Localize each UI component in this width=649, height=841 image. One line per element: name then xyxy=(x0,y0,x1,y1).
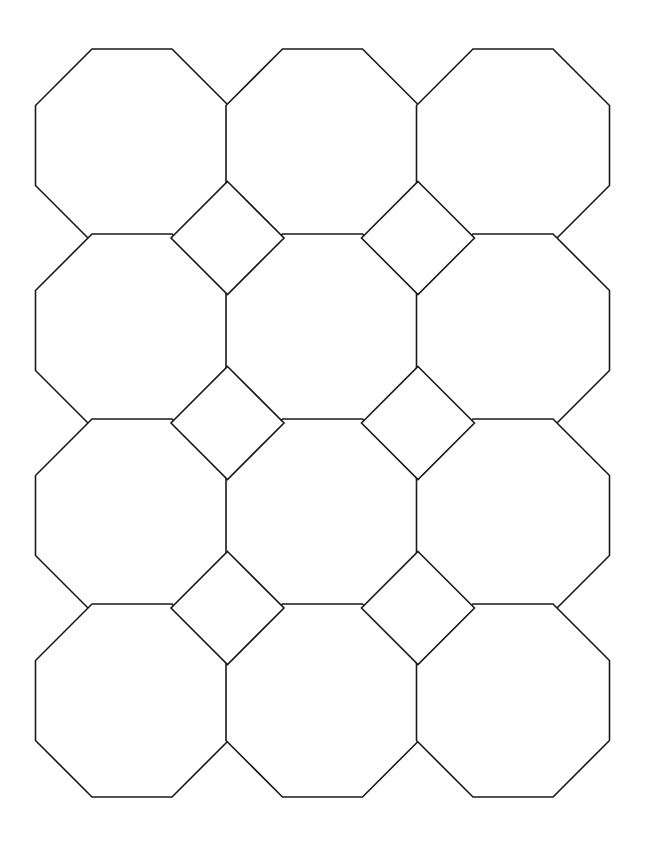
tiling-page: Truncated Square Tiling Pattern Black-an… xyxy=(0,0,649,841)
octagon-layer xyxy=(36,49,610,797)
tiling-canvas: Truncated Square Tiling Pattern Black-an… xyxy=(0,0,649,841)
